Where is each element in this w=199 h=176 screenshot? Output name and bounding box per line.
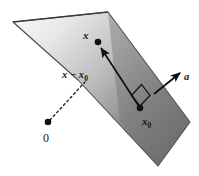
hyperplane-projection-figure: x x0 0 x − x0 a [0, 0, 199, 176]
hyperplane-shadow-wedge [108, 12, 190, 166]
vector-a-label: a [184, 71, 189, 82]
vector-x-minus-x0-label: x − x0 [61, 69, 88, 83]
point-origin-label: 0 [43, 131, 49, 145]
vector-label-subscript: 0 [84, 74, 88, 83]
point-x-label: x [82, 29, 89, 41]
point-origin-dot [45, 119, 52, 126]
point-x-dot [95, 39, 102, 46]
figure-canvas: x x0 0 x − x0 a [0, 0, 199, 176]
origin-to-plane-dashed-line [50, 82, 85, 120]
point-x0-label-subscript: 0 [148, 121, 152, 130]
point-x0-dot [137, 105, 144, 112]
vector-label-base: x − x [61, 69, 84, 80]
